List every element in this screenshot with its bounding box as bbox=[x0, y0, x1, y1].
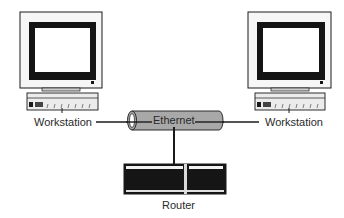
workstation-left-icon bbox=[20, 12, 102, 113]
workstation-right-icon bbox=[248, 12, 331, 113]
router-icon bbox=[124, 164, 226, 194]
workstation-right-label: Workstation bbox=[265, 116, 323, 128]
workstation-left-label: Workstation bbox=[34, 116, 92, 128]
router-label: Router bbox=[162, 199, 195, 211]
network-diagram bbox=[0, 0, 344, 218]
ethernet-label: Ethernet bbox=[153, 114, 195, 126]
